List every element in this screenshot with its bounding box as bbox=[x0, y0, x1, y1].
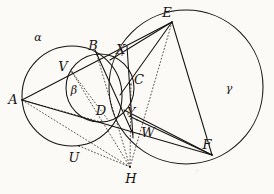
point-H bbox=[129, 166, 131, 168]
point-E bbox=[171, 21, 173, 23]
line-A-to-E-tangent bbox=[22, 22, 172, 100]
circle-label-alpha: α bbox=[34, 32, 41, 43]
geometry-svg bbox=[0, 0, 274, 194]
point-label-V: V bbox=[58, 60, 67, 73]
point-label-E: E bbox=[162, 6, 172, 19]
line-C-vertical-line bbox=[127, 46, 133, 138]
point-label-Y: Y bbox=[127, 106, 136, 119]
line-F-to-Y-line bbox=[124, 110, 212, 155]
point-label-X: X bbox=[116, 43, 125, 56]
point-label-D: D bbox=[96, 104, 106, 117]
point-label-C: C bbox=[134, 73, 144, 86]
line-E-to-F-chord bbox=[172, 22, 212, 155]
circle-gamma bbox=[109, 10, 263, 164]
point-V bbox=[71, 71, 73, 73]
point-C bbox=[130, 83, 132, 85]
point-B bbox=[97, 53, 99, 55]
point-label-U: U bbox=[69, 151, 80, 164]
dotted-line-H-to-U-ray bbox=[79, 146, 130, 167]
point-F bbox=[211, 154, 213, 156]
point-label-B: B bbox=[88, 39, 98, 52]
line-A-to-F-tangent bbox=[22, 100, 212, 155]
point-label-A: A bbox=[8, 93, 17, 106]
point-D bbox=[100, 121, 102, 123]
circle-label-gamma: γ bbox=[226, 83, 233, 94]
point-label-F: F bbox=[202, 138, 211, 151]
point-label-H: H bbox=[125, 172, 136, 185]
point-A bbox=[21, 99, 23, 101]
point-U bbox=[78, 145, 80, 147]
point-W bbox=[136, 119, 138, 121]
point-label-W: W bbox=[141, 126, 154, 139]
diagram-canvas: αβγABCDEFUVWXYH bbox=[0, 0, 274, 194]
circle-label-beta: β bbox=[71, 85, 77, 96]
